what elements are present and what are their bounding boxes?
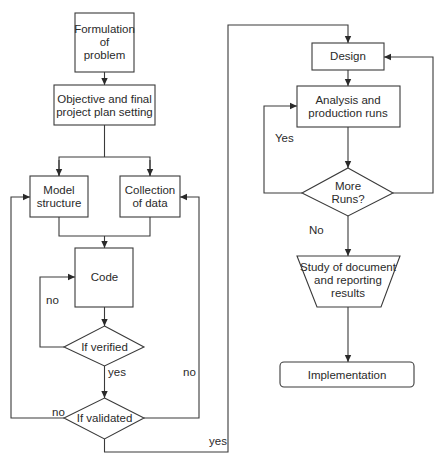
edge-validated-no-left: [11, 197, 64, 418]
edge-validated-no-right: [144, 197, 199, 418]
node-label: Design: [330, 50, 366, 62]
node-if-verified: If verified: [64, 326, 144, 366]
edge-more-runs-yes-loop: [264, 106, 302, 193]
node-if-validated: If validated: [64, 398, 144, 439]
label-verified-yes: yes: [108, 366, 126, 378]
node-formulation: Formulation of problem: [74, 13, 135, 72]
node-label: Collection: [125, 184, 176, 196]
node-label: Objective and final: [57, 93, 152, 105]
node-study: Study of document and reporting results: [297, 256, 400, 307]
node-label: of: [100, 36, 110, 48]
node-label: Model: [43, 184, 74, 196]
label-validated-yes: yes: [209, 435, 227, 447]
node-label: Study of document: [300, 261, 397, 273]
node-label: project plan setting: [56, 106, 153, 118]
label-verified-no: no: [46, 294, 59, 306]
node-label: More: [335, 180, 361, 192]
node-label: problem: [84, 49, 126, 61]
node-label: structure: [37, 197, 82, 209]
node-label: If validated: [77, 412, 133, 424]
node-objective: Objective and final project plan setting: [54, 85, 155, 125]
node-label: If verified: [81, 341, 128, 353]
label-more-runs-yes: Yes: [275, 132, 294, 144]
node-label: results: [331, 287, 365, 299]
node-label: Runs?: [331, 193, 364, 205]
label-more-runs-no: No: [309, 224, 324, 236]
node-design: Design: [312, 43, 384, 70]
node-label: and reporting: [314, 274, 382, 286]
node-code: Code: [75, 248, 133, 307]
node-analysis: Analysis and production runs: [297, 86, 400, 127]
label-validated-no-right: no: [183, 366, 196, 378]
node-label: production runs: [308, 107, 388, 119]
edge-split-bar: [59, 157, 150, 176]
node-model-structure: Model structure: [30, 176, 88, 217]
node-label: Formulation: [74, 23, 135, 35]
flowchart-canvas: Formulation of problem Objective and fin…: [0, 0, 443, 462]
node-label: Analysis and: [315, 94, 380, 106]
edge-verified-no-loop: [40, 277, 75, 347]
edge-merge-bar: [59, 217, 150, 236]
node-implementation: Implementation: [280, 362, 414, 387]
node-more-runs: More Runs?: [302, 168, 393, 216]
node-label: Implementation: [308, 369, 387, 381]
node-collection-data: Collection of data: [120, 176, 180, 217]
node-label: of data: [132, 197, 168, 209]
node-label: Code: [91, 271, 119, 283]
label-validated-no-left: no: [52, 406, 65, 418]
